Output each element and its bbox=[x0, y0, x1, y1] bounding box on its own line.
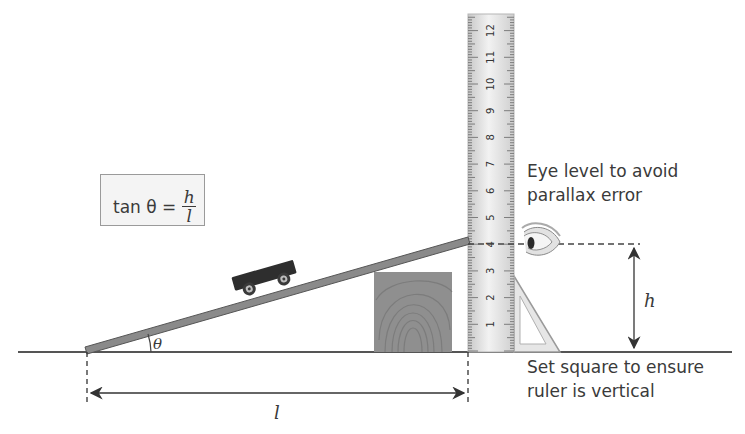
set-square bbox=[514, 276, 560, 352]
ruler-number: 5 bbox=[485, 214, 496, 220]
formula-prefix: tan θ = bbox=[113, 197, 176, 217]
eye-level-text-line1: Eye level to avoid bbox=[527, 160, 678, 182]
tan-formula: tan θ = h l bbox=[113, 188, 196, 225]
vertical-ruler: 123456789101112 bbox=[468, 14, 514, 352]
ruler-number: 11 bbox=[485, 51, 496, 64]
ruler-number: 9 bbox=[485, 108, 496, 114]
eye-icon bbox=[522, 223, 560, 255]
formula-fraction: h l bbox=[182, 188, 196, 225]
ruler-number: 7 bbox=[485, 161, 496, 167]
formula-box: tan θ = h l bbox=[100, 174, 205, 226]
set-square-text-line1: Set square to ensure bbox=[527, 356, 704, 378]
angle-arc bbox=[148, 334, 151, 352]
ruler-number: 6 bbox=[485, 188, 496, 194]
ruler-number: 12 bbox=[485, 24, 496, 37]
ruler-number: 8 bbox=[485, 134, 496, 140]
formula-numerator: h bbox=[184, 188, 195, 206]
set-square-text-line2: ruler is vertical bbox=[527, 380, 655, 402]
length-label: l bbox=[274, 402, 280, 424]
ruler-number: 2 bbox=[485, 294, 496, 300]
formula-denominator: l bbox=[187, 207, 192, 225]
ruler-number: 1 bbox=[485, 321, 496, 327]
ruler-number: 3 bbox=[485, 268, 496, 274]
wooden-block bbox=[374, 272, 452, 352]
eye-level-text-line2: parallax error bbox=[527, 184, 642, 206]
height-label: h bbox=[644, 290, 656, 312]
theta-label: θ bbox=[153, 333, 162, 355]
ruler-number: 10 bbox=[485, 78, 496, 91]
